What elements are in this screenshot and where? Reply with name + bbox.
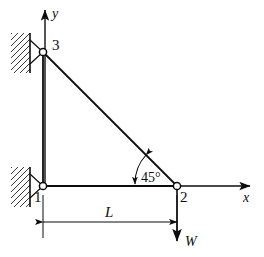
node-label-2: 2 xyxy=(180,189,188,205)
node-label-3: 3 xyxy=(52,37,60,53)
node-3-circle xyxy=(39,48,46,55)
node-label-1: 1 xyxy=(34,189,42,205)
figure-background xyxy=(0,0,264,257)
load-label-W: W xyxy=(185,234,198,249)
dimension-label-L: L xyxy=(104,204,113,220)
truss-figure: y x 3 1 2 45° L xyxy=(0,0,264,257)
truss-diagram-canvas: y x 3 1 2 45° L xyxy=(0,0,264,257)
angle-label: 45° xyxy=(141,170,161,185)
x-axis-label: x xyxy=(242,190,250,205)
y-axis-label: y xyxy=(50,6,59,21)
